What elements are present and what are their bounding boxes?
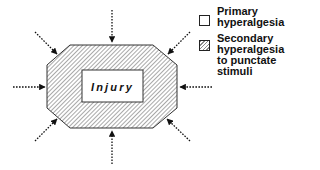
arrow-bottom-left bbox=[35, 119, 57, 141]
legend-swatch-hatched bbox=[199, 40, 210, 51]
legend-label-secondary: Secondary hyperalgesia to punctate stimu… bbox=[217, 33, 284, 77]
legend-line: hyperalgesia bbox=[217, 17, 284, 28]
arrow-top-right bbox=[168, 32, 190, 54]
legend-swatch-plain bbox=[199, 15, 210, 26]
arrow-bottom-right bbox=[167, 119, 190, 141]
legend-label-primary: Primary hyperalgesia bbox=[217, 6, 284, 28]
arrow-top-left bbox=[35, 32, 57, 54]
injury-label: Injury bbox=[91, 81, 134, 93]
legend-line: stimuli bbox=[217, 66, 284, 77]
